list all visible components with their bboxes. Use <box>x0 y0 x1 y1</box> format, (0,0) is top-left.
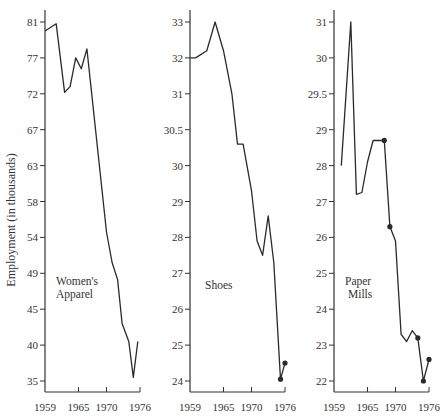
data-point-marker <box>415 335 420 340</box>
x-tick-label: 1970 <box>95 401 118 413</box>
y-tick-label: 26 <box>316 231 328 243</box>
y-tick-label: 24 <box>316 303 328 315</box>
y-tick-label: 81 <box>27 16 38 28</box>
series-label: Paper <box>345 275 371 288</box>
y-tick-label: 25 <box>172 339 184 351</box>
y-tick-label: 35 <box>27 375 39 387</box>
y-tick-label: 30.5 <box>164 124 184 136</box>
y-tick-label: 26 <box>172 303 184 315</box>
y-tick-label: 45 <box>27 303 39 315</box>
data-point-marker <box>387 224 392 229</box>
y-tick-label: 23 <box>316 339 328 351</box>
y-tick-label: 29.5 <box>308 88 328 100</box>
data-point-marker <box>278 377 283 382</box>
y-tick-label: 28 <box>316 160 328 172</box>
y-tick-label: 28 <box>172 231 184 243</box>
x-tick-label: 1965 <box>68 401 91 413</box>
y-tick-label: 72 <box>27 88 38 100</box>
y-tick-label: 29 <box>172 196 184 208</box>
series-line <box>341 22 429 381</box>
x-tick-label: 1965 <box>357 401 380 413</box>
data-point-marker <box>282 360 287 365</box>
x-tick-label: 1959 <box>179 401 202 413</box>
y-tick-label: 32 <box>172 52 183 64</box>
x-tick-label: 1959 <box>323 401 346 413</box>
y-tick-label: 30 <box>316 52 328 64</box>
x-tick-label: 1976 <box>274 401 297 413</box>
y-tick-label: 63 <box>27 160 39 172</box>
x-tick-label: 1976 <box>129 401 152 413</box>
y-tick-label: 54 <box>27 231 39 243</box>
y-tick-label: 30 <box>172 160 184 172</box>
x-tick-label: 1970 <box>240 401 263 413</box>
y-tick-label: 49 <box>27 267 39 279</box>
y-tick-label: 25 <box>316 267 328 279</box>
x-tick-label: 1959 <box>34 401 57 413</box>
series-line <box>45 24 138 378</box>
panel-paper-mills: 313029.529282726252423221959196519701976… <box>308 10 441 413</box>
data-point-marker <box>382 138 387 143</box>
y-tick-label: 27 <box>172 267 184 279</box>
data-point-marker <box>421 378 426 383</box>
y-tick-label: 40 <box>27 339 39 351</box>
y-tick-label: 77 <box>27 52 39 64</box>
y-tick-label: 29 <box>316 124 328 136</box>
y-tick-label: 27 <box>316 196 328 208</box>
employment-chart-figure: Employment (in thousands) 81777267635854… <box>0 0 446 420</box>
panel-women-s-apparel: 81777267635854494540351959196519701976Wo… <box>27 10 152 413</box>
y-tick-label: 31 <box>172 88 183 100</box>
series-label: Apparel <box>56 288 93 301</box>
y-tick-label: 22 <box>316 375 327 387</box>
x-tick-label: 1965 <box>213 401 236 413</box>
series-label: Mills <box>348 288 373 300</box>
y-tick-label: 58 <box>27 196 39 208</box>
series-label: Women's <box>56 275 99 287</box>
series-label: Shoes <box>205 279 233 291</box>
x-tick-label: 1976 <box>418 401 441 413</box>
y-tick-label: 67 <box>27 124 39 136</box>
x-tick-label: 1970 <box>384 401 407 413</box>
y-tick-label: 31 <box>316 16 327 28</box>
y-axis-label: Employment (in thousands) <box>4 153 18 286</box>
y-tick-label: 24 <box>172 375 184 387</box>
y-tick-label: 33 <box>172 16 184 28</box>
data-point-marker <box>426 357 431 362</box>
series-line <box>190 22 285 379</box>
panel-shoes: 33323130.5302928272625241959196519701976… <box>164 10 297 413</box>
